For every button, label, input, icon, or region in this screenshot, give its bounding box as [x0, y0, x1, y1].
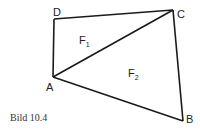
vertex-label-c: C	[177, 8, 185, 20]
vertex-label-a: A	[46, 81, 54, 93]
diagonal-ac	[53, 10, 173, 77]
figure-caption: Bild 10.4	[10, 112, 47, 123]
region-label-f1: F1	[79, 34, 90, 48]
quadrilateral-diagram: D C A B F1 F2 Bild 10.4	[0, 0, 200, 131]
edge-da	[53, 19, 54, 77]
vertex-label-d: D	[53, 6, 61, 18]
edge-ab	[53, 77, 183, 121]
region-label-f2: F2	[128, 67, 139, 81]
edge-cb	[173, 10, 183, 121]
vertex-label-b: B	[186, 113, 193, 125]
edge-dc	[54, 10, 173, 19]
